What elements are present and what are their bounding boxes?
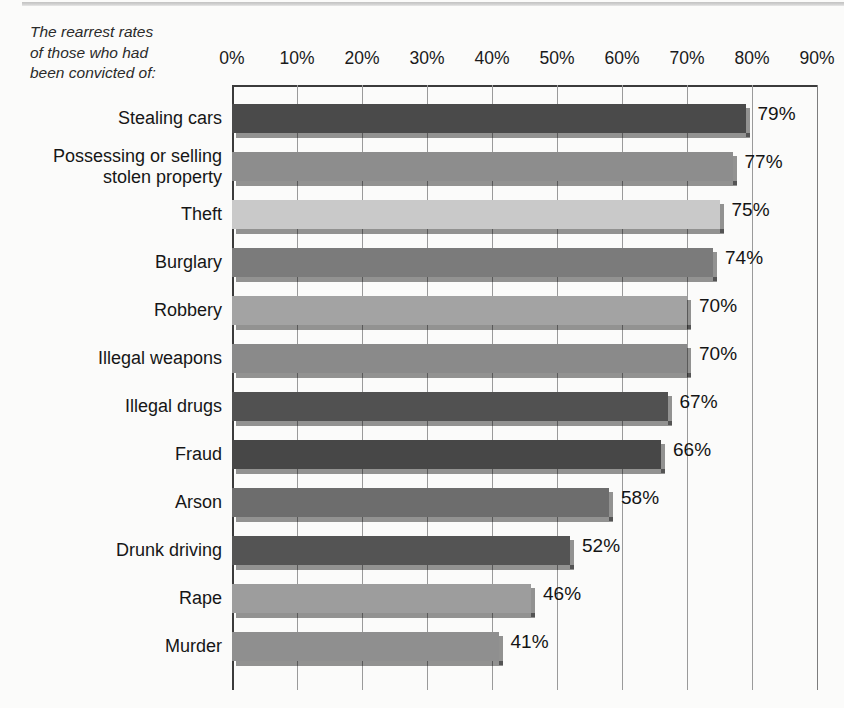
- bar[interactable]: [232, 536, 570, 565]
- category-label: Fraud: [0, 444, 222, 465]
- bar-value-label: 58%: [621, 487, 659, 509]
- bar-value-label: 70%: [699, 343, 737, 365]
- bar-value-label: 70%: [699, 295, 737, 317]
- bar[interactable]: [232, 104, 746, 133]
- bar-row[interactable]: 67%: [232, 383, 817, 431]
- bar-value-label: 66%: [673, 439, 711, 461]
- gridline: [817, 85, 818, 690]
- bar-value-label: 67%: [680, 391, 718, 413]
- bar-row[interactable]: 70%: [232, 335, 817, 383]
- plot-top-border: [232, 85, 817, 87]
- category-label: Stealing cars: [0, 108, 222, 129]
- bar[interactable]: [232, 248, 713, 277]
- bar-value-label: 77%: [745, 151, 783, 173]
- chart-plot-area: 79%77%75%74%70%70%67%66%58%52%46%41%: [232, 85, 817, 690]
- x-axis-tick-label: 60%: [604, 48, 639, 69]
- bar-value-label: 52%: [582, 535, 620, 557]
- bar-row[interactable]: 52%: [232, 527, 817, 575]
- bar-value-label: 75%: [732, 199, 770, 221]
- bar-row[interactable]: 66%: [232, 431, 817, 479]
- bar[interactable]: [232, 200, 720, 229]
- bar-value-label: 41%: [511, 631, 549, 653]
- bar-row[interactable]: 41%: [232, 623, 817, 671]
- bar-value-label: 74%: [725, 247, 763, 269]
- bar[interactable]: [232, 392, 668, 421]
- x-axis-tick-label: 0%: [219, 48, 244, 69]
- category-label: Murder: [0, 636, 222, 657]
- bar-value-label: 79%: [758, 103, 796, 125]
- category-label: Theft: [0, 204, 222, 225]
- x-axis-tick-label: 20%: [344, 48, 379, 69]
- category-label: Illegal weapons: [0, 348, 222, 369]
- bar-value-label: 46%: [543, 583, 581, 605]
- bar[interactable]: [232, 152, 733, 181]
- x-axis-tick-label: 90%: [799, 48, 834, 69]
- bar-row[interactable]: 58%: [232, 479, 817, 527]
- bar[interactable]: [232, 632, 499, 661]
- category-label: Robbery: [0, 300, 222, 321]
- x-axis-tick-label: 10%: [279, 48, 314, 69]
- bar[interactable]: [232, 296, 687, 325]
- category-label: Possessing or selling stolen property: [0, 146, 222, 188]
- x-axis-tick-labels: 0%10%20%30%40%50%60%70%80%90%: [0, 48, 844, 72]
- x-axis-tick-label: 40%: [474, 48, 509, 69]
- bar-row[interactable]: 77%: [232, 143, 817, 191]
- y-axis-category-labels: Stealing carsPossessing or selling stole…: [0, 85, 222, 690]
- x-axis-tick-label: 50%: [539, 48, 574, 69]
- top-divider-rule: [22, 2, 844, 6]
- caption-line: The rearrest rates: [30, 22, 226, 43]
- bar[interactable]: [232, 584, 531, 613]
- x-axis-tick-label: 80%: [734, 48, 769, 69]
- bar-row[interactable]: 46%: [232, 575, 817, 623]
- category-label: Drunk driving: [0, 540, 222, 561]
- bar-row[interactable]: 75%: [232, 191, 817, 239]
- x-axis-tick-label: 30%: [409, 48, 444, 69]
- bar[interactable]: [232, 344, 687, 373]
- category-label: Arson: [0, 492, 222, 513]
- bar[interactable]: [232, 440, 661, 469]
- x-axis-tick-label: 70%: [669, 48, 704, 69]
- bar-row[interactable]: 74%: [232, 239, 817, 287]
- category-label: Rape: [0, 588, 222, 609]
- category-label: Illegal drugs: [0, 396, 222, 417]
- bar-row[interactable]: 79%: [232, 95, 817, 143]
- bar[interactable]: [232, 488, 609, 517]
- bar-row[interactable]: 70%: [232, 287, 817, 335]
- category-label: Burglary: [0, 252, 222, 273]
